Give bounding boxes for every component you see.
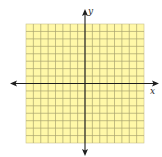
y-axis-label: y [88, 7, 93, 16]
coordinate-plane: y x [0, 0, 162, 157]
coordinate-plane-graphic [0, 0, 162, 157]
x-axis-label: x [150, 87, 155, 96]
